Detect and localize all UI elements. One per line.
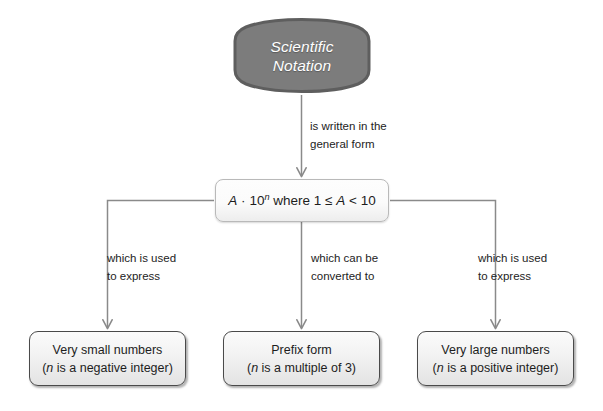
formula-exponent: n [264, 192, 269, 202]
node-very-small-numbers[interactable]: Very small numbers (n is a negative inte… [29, 331, 186, 386]
formula-coefficient: A [228, 193, 237, 208]
node-very-small-numbers-line-1: Very small numbers [53, 341, 163, 359]
edge-label-right-line-1: which is used [478, 250, 547, 268]
edge-label-top-line-2: general form [310, 136, 387, 154]
prefix-line-2-rest: is a multiple of 3) [258, 361, 356, 375]
flowchart-canvas: Scientific Notation is written in the ge… [0, 0, 603, 411]
formula-condition-prefix: where 1 ≤ [273, 193, 336, 208]
edge-label-center-line-2: converted to [311, 268, 378, 286]
large-line-2-rest: is a positive integer) [444, 361, 559, 375]
node-general-form[interactable]: A · 10n where 1 ≤ A < 10 [215, 179, 389, 222]
node-scientific-notation-label: Scientific Notation [232, 14, 372, 97]
node-prefix-form-line-2: (n is a multiple of 3) [247, 359, 356, 377]
edge-label-which-is-used-to-express-left: which is used to express [107, 250, 176, 285]
node-prefix-form[interactable]: Prefix form (n is a multiple of 3) [223, 331, 380, 386]
node-very-large-numbers-line-1: Very large numbers [441, 341, 549, 359]
edge-label-left-line-1: which is used [107, 250, 176, 268]
edge-label-right-line-2: to express [478, 268, 547, 286]
node-general-form-label: A · 10n where 1 ≤ A < 10 [228, 192, 375, 209]
formula-base: 10 [249, 193, 264, 208]
small-line-2-rest: is a negative integer) [53, 361, 173, 375]
edge-label-which-is-used-to-express-right: which is used to express [478, 250, 547, 285]
edge-label-top-line-1: is written in the [310, 118, 387, 136]
node-very-small-numbers-line-2: (n is a negative integer) [42, 359, 173, 377]
node-prefix-form-line-1: Prefix form [271, 341, 331, 359]
formula-operator: · [241, 193, 246, 208]
node-very-large-numbers-line-2: (n is a positive integer) [433, 359, 559, 377]
large-variable: n [437, 361, 444, 375]
banner-line-2: Notation [273, 56, 332, 75]
node-very-large-numbers[interactable]: Very large numbers (n is a positive inte… [417, 331, 574, 386]
edge-label-left-line-2: to express [107, 268, 176, 286]
edge-label-is-written-in-the-general-form: is written in the general form [310, 118, 387, 153]
edge-label-which-can-be-converted-to: which can be converted to [311, 250, 378, 285]
node-scientific-notation[interactable]: Scientific Notation [232, 14, 372, 97]
formula-condition-suffix: < 10 [345, 193, 375, 208]
edge-label-center-line-1: which can be [311, 250, 378, 268]
formula-condition-variable: A [336, 193, 345, 208]
banner-line-1: Scientific [270, 37, 333, 56]
